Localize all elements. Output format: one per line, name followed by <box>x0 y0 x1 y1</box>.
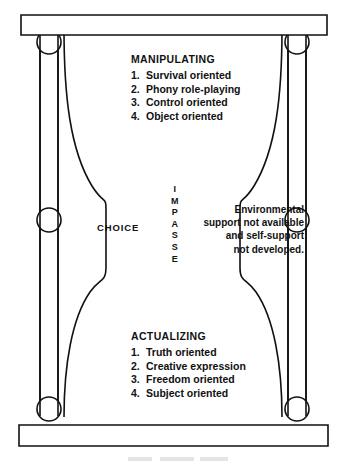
support-note: Environmental support not available and … <box>196 203 304 256</box>
list-item: 3. Freedom oriented <box>131 373 246 387</box>
list-item: 1. Survival oriented <box>131 69 241 83</box>
list-item: 3. Control oriented <box>131 96 241 110</box>
list-item-number: 4. <box>131 387 146 401</box>
impasse-letter: S <box>168 230 182 242</box>
list-item-label: Object oriented <box>146 110 223 124</box>
caption-remnant <box>128 457 228 461</box>
manipulating-heading: MANIPULATING <box>131 53 241 66</box>
actualizing-heading: ACTUALIZING <box>131 330 246 343</box>
hourglass-diagram: MANIPULATING 1. Survival oriented 2. Pho… <box>0 0 346 466</box>
list-item-label: Survival oriented <box>146 69 231 83</box>
list-item: 2. Creative expression <box>131 360 246 374</box>
impasse-label: I M P A S S E <box>168 184 182 265</box>
list-item-label: Truth oriented <box>146 346 217 360</box>
list-item-label: Control oriented <box>146 96 228 110</box>
manipulating-block: MANIPULATING 1. Survival oriented 2. Pho… <box>131 53 241 123</box>
impasse-letter: I <box>168 184 182 196</box>
impasse-letter: S <box>168 242 182 254</box>
list-item-number: 4. <box>131 110 146 124</box>
list-item-number: 1. <box>131 69 146 83</box>
list-item-number: 2. <box>131 360 146 374</box>
frame-bar-top <box>21 15 327 35</box>
list-item-number: 3. <box>131 96 146 110</box>
support-note-line: Environmental <box>196 203 304 216</box>
list-item-number: 1. <box>131 346 146 360</box>
list-item-label: Freedom oriented <box>146 373 235 387</box>
support-note-line: not developed. <box>196 243 304 256</box>
actualizing-list: 1. Truth oriented 2. Creative expression… <box>131 346 246 400</box>
list-item: 2. Phony role-playing <box>131 83 241 97</box>
impasse-letter: E <box>168 254 182 266</box>
list-item-label: Phony role-playing <box>146 83 241 97</box>
impasse-letter: P <box>168 207 182 219</box>
list-item-label: Creative expression <box>146 360 246 374</box>
choice-label: CHOICE <box>97 222 139 233</box>
impasse-letter: M <box>168 196 182 208</box>
support-note-line: and self-support <box>196 229 304 242</box>
support-note-line: support not available <box>196 216 304 229</box>
frame-bar-bottom <box>19 425 328 446</box>
actualizing-block: ACTUALIZING 1. Truth oriented 2. Creativ… <box>131 330 246 400</box>
list-item-number: 2. <box>131 83 146 97</box>
list-item-label: Subject oriented <box>146 387 228 401</box>
list-item: 4. Object oriented <box>131 110 241 124</box>
manipulating-list: 1. Survival oriented 2. Phony role-playi… <box>131 69 241 123</box>
list-item: 4. Subject oriented <box>131 387 246 401</box>
list-item: 1. Truth oriented <box>131 346 246 360</box>
list-item-number: 3. <box>131 373 146 387</box>
impasse-letter: A <box>168 219 182 231</box>
